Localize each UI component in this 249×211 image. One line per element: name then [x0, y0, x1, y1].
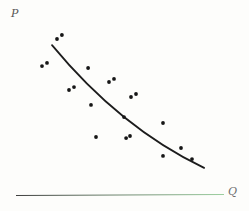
data-point: [112, 77, 116, 81]
data-point: [128, 134, 132, 138]
data-point: [107, 80, 111, 84]
scatter-plot-figure: P Q: [0, 0, 249, 211]
data-point: [94, 135, 98, 139]
data-point: [89, 103, 93, 107]
data-point: [67, 88, 71, 92]
x-axis-label: Q: [228, 186, 237, 197]
data-point: [179, 146, 183, 150]
chart-canvas: [0, 0, 249, 211]
data-point: [40, 64, 44, 68]
y-axis-label: P: [11, 8, 18, 19]
data-point: [72, 85, 76, 89]
data-point: [129, 95, 133, 99]
data-point: [45, 61, 49, 65]
data-point: [122, 115, 126, 119]
data-point: [161, 121, 165, 125]
data-point: [134, 92, 138, 96]
data-point: [86, 66, 90, 70]
data-point: [190, 157, 194, 161]
data-point: [124, 136, 128, 140]
x-axis: [16, 195, 224, 196]
data-point: [161, 154, 165, 158]
data-point: [55, 37, 59, 41]
data-point: [60, 33, 64, 37]
